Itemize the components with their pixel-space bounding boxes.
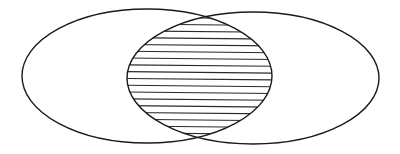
background	[0, 0, 400, 154]
venn-diagram-svg	[0, 0, 400, 154]
venn-diagram	[0, 0, 400, 154]
